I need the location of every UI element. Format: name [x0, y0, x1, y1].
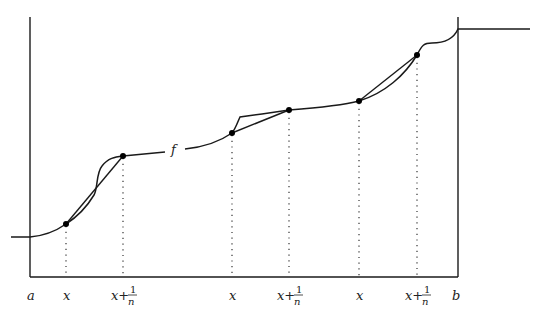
label-x3n-num: 1	[424, 284, 430, 295]
label-x1n-den: n	[128, 296, 134, 307]
point-x1	[63, 221, 69, 227]
point-x2n	[286, 107, 292, 113]
label-x2n-base: x+	[277, 288, 295, 303]
label-a: a	[27, 288, 35, 303]
sample-points	[63, 52, 420, 227]
label-x3n-den: n	[422, 296, 428, 307]
secant-lines	[66, 55, 417, 224]
secant-3	[359, 55, 417, 101]
dotted-guides	[66, 57, 417, 277]
point-x3	[356, 98, 362, 104]
label-x1: x	[63, 288, 71, 303]
label-x1n-base: x+	[111, 288, 129, 303]
label-x1n: x+ 1 n	[111, 284, 137, 307]
secant-1	[66, 156, 123, 224]
label-x3n: x+ 1 n	[405, 284, 431, 307]
label-x1n-num: 1	[130, 284, 136, 295]
label-x2n-den: n	[294, 296, 300, 307]
label-b: b	[452, 288, 460, 303]
point-x3n	[414, 52, 420, 58]
point-x2	[229, 130, 235, 136]
label-x2n-num: 1	[296, 284, 302, 295]
point-x1n	[120, 153, 126, 159]
label-x3n-base: x+	[405, 288, 423, 303]
label-x3: x	[356, 288, 364, 303]
function-curve	[11, 29, 530, 237]
function-label: f	[170, 142, 178, 157]
label-x2: x	[229, 288, 237, 303]
diagram-canvas: f a b x x+ 1 n x x+ 1 n x x+ 1 n	[0, 0, 548, 319]
label-x2n: x+ 1 n	[277, 284, 303, 307]
